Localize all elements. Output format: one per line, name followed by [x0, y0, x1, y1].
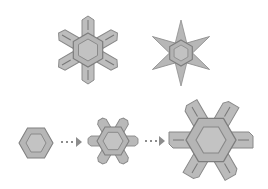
dotted-arrow-icon	[61, 137, 82, 147]
large-branched-plate-icon	[169, 100, 253, 181]
small-branched-plate-icon	[88, 117, 138, 165]
branched-plate-crystal-icon	[56, 16, 121, 84]
hexagonal-plate-icon	[19, 128, 53, 158]
dotted-arrow-icon	[145, 136, 165, 146]
stellar-crystal-icon	[149, 20, 212, 86]
diagram-canvas: Ice crystal forms and growth sequence	[0, 0, 268, 189]
diagram-svg	[0, 0, 268, 189]
